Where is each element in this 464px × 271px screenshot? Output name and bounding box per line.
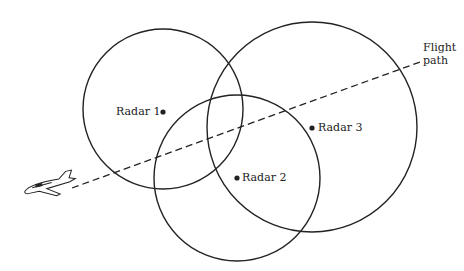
radar-3-label: Radar 3 (318, 122, 362, 134)
radar-2-label: Radar 2 (242, 172, 286, 184)
radar-2-dot (234, 175, 239, 180)
diagram-canvas (0, 0, 464, 271)
radar-coverage-diagram: Radar 1 Radar 2 Radar 3 Flight path (0, 0, 464, 271)
radar-1-coverage-circle (83, 29, 243, 189)
flight-path-line (72, 62, 420, 188)
flight-path-label-line2: path (423, 55, 448, 67)
radar-3-dot (309, 125, 314, 130)
radar-1-dot (160, 109, 165, 114)
airplane-icon (22, 170, 78, 202)
radar-1-label: Radar 1 (116, 106, 160, 118)
flight-path-label-line1: Flight (423, 42, 456, 54)
